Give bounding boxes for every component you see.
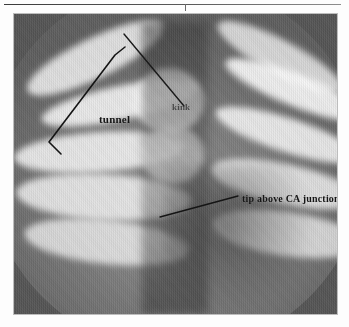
page-canvas: tunnel kink tip above CA junction (0, 0, 349, 327)
radiograph-image: tunnel kink tip above CA junction (14, 14, 337, 314)
tunnel-bracket-marker (49, 47, 125, 154)
page-top-rule (4, 4, 341, 5)
tip-leader-line (160, 196, 238, 217)
annotation-label-tip-above-ca-junction: tip above CA junction (242, 193, 337, 204)
annotation-label-kink: kink (172, 102, 190, 112)
annotation-label-tunnel: tunnel (99, 113, 130, 125)
kink-leader-line (124, 34, 184, 106)
annotation-overlay (14, 14, 337, 314)
page-rule-tick-mark (185, 4, 186, 11)
